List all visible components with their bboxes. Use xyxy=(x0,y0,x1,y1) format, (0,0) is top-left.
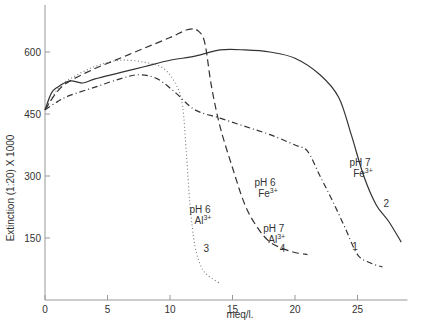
y-tick-label: 600 xyxy=(24,47,41,58)
x-tick-label: 10 xyxy=(164,304,176,315)
series-line-1 xyxy=(45,75,383,267)
annotation-label: 3 xyxy=(203,243,209,254)
annotations: pH 7Fe3+pH 6Fe3+pH 6Al3+pH 7Al3+1234 xyxy=(189,157,389,255)
annotation-label: 2 xyxy=(383,198,389,209)
annotation-label: 1 xyxy=(352,241,358,252)
tick-labels: 0510152025150300450600 xyxy=(24,47,363,315)
chart: 0510152025150300450600 pH 7Fe3+pH 6Fe3+p… xyxy=(0,0,430,328)
x-tick-label: 25 xyxy=(352,304,364,315)
series-line-3 xyxy=(45,60,220,283)
annotation-ion: Fe3+ xyxy=(258,187,278,199)
y-tick-label: 150 xyxy=(24,233,41,244)
annotation-ion: Al3+ xyxy=(195,214,212,226)
series-line-2 xyxy=(45,49,401,242)
x-tick-label: 5 xyxy=(105,304,111,315)
x-tick-label: 0 xyxy=(42,304,48,315)
y-axis-label: Extinction (1:20) X 1000 xyxy=(5,134,16,241)
series-lines xyxy=(45,29,401,284)
annotation-ion: Fe3+ xyxy=(353,167,373,179)
y-tick-label: 450 xyxy=(24,109,41,120)
x-tick-label: 20 xyxy=(289,304,301,315)
series-line-4 xyxy=(45,29,308,255)
annotation-label: 4 xyxy=(280,243,286,254)
y-tick-label: 300 xyxy=(24,171,41,182)
x-axis-label: meq/l. xyxy=(226,309,253,320)
